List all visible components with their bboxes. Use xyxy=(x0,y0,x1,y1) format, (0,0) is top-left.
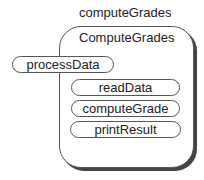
external-method-pill: processData xyxy=(12,56,114,73)
class-box xyxy=(59,26,194,168)
method-pill-computegrade: computeGrade xyxy=(71,100,180,117)
method-pill-readdata: readData xyxy=(71,79,180,96)
module-label: computeGrades xyxy=(79,5,172,20)
class-label: ComputeGrades xyxy=(79,30,174,45)
method-pill-printresult: printResult xyxy=(70,121,181,138)
